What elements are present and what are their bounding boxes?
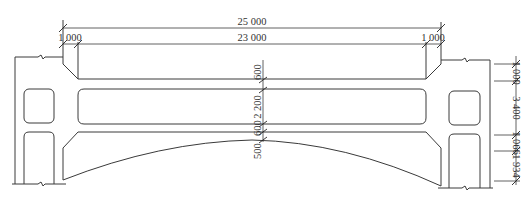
dim-clear-span: 23 000 <box>238 32 267 43</box>
dim-right-seg3: 1 066 <box>511 131 522 155</box>
dim-right-seg1: 1 000 <box>511 61 522 85</box>
dim-right-seg2: 3 400 <box>511 96 522 120</box>
left-pier <box>12 55 66 186</box>
bridge-elevation-drawing: 25 000 23 000 1 000 1 000 600 2 200 600 … <box>0 0 532 202</box>
dim-left-wall: 1 000 <box>58 32 82 43</box>
dim-top-slab: 600 <box>252 64 263 80</box>
dim-opening-height: 2 200 <box>252 95 263 119</box>
dim-overall-width: 25 000 <box>238 16 267 27</box>
dim-right-seg4: 1 934 <box>511 154 522 178</box>
dim-lower-slab: 600 <box>252 120 263 136</box>
dim-crown: 500 <box>252 143 263 159</box>
dim-right-wall: 1 000 <box>421 32 445 43</box>
right-pier <box>438 58 493 190</box>
drawing-svg: 25 000 23 000 1 000 1 000 600 2 200 600 … <box>0 0 532 202</box>
